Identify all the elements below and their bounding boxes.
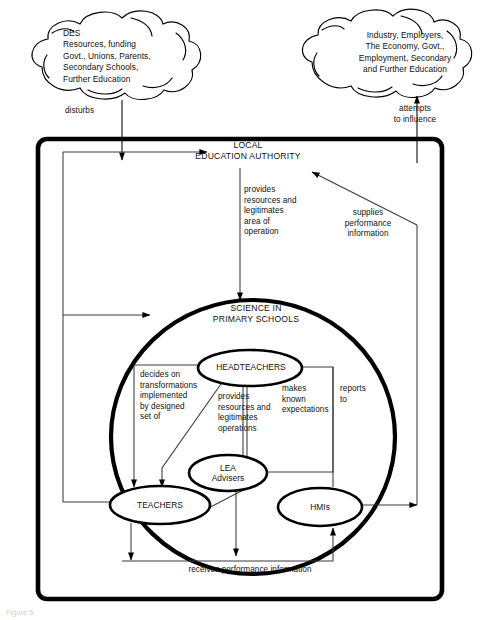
- decides-on-transformations-label: decides on transformations implemented b…: [140, 370, 222, 423]
- disturbs-label: disturbs: [65, 106, 135, 117]
- figure-caption: Figure 5: [6, 608, 34, 617]
- hmis-label: HMIs: [292, 502, 348, 512]
- teachers-label: TEACHERS: [122, 500, 198, 510]
- science-in-primary-schools-label: SCIENCE IN PRIMARY SCHOOLS: [188, 303, 324, 325]
- supplies-performance-information-label: supplies performance information: [329, 208, 407, 240]
- attempts-to-influence-label: attempts to influence: [372, 104, 458, 125]
- environment-cloud-label: Industry, Employers, The Economy, Govt.,…: [335, 30, 475, 76]
- local-education-authority-label: LOCAL EDUCATION AUTHORITY: [178, 140, 318, 162]
- provides-resources-lea-label: provides resources and legitimates area …: [244, 185, 334, 238]
- receives-performance-information-label: receives performance information: [155, 565, 345, 576]
- diagram-canvas: DES Resources, funding Govt., Unions, Pa…: [0, 0, 492, 620]
- des-cloud-label: DES Resources, funding Govt., Unions, Pa…: [63, 28, 203, 85]
- science-in-primary-schools-circle: [111, 300, 395, 574]
- lea-advisers-label: LEA Advisers: [196, 463, 260, 484]
- makes-known-expectations-label: makes known expectations: [282, 384, 348, 416]
- reports-to-label: reports to: [340, 384, 388, 405]
